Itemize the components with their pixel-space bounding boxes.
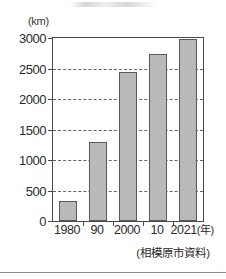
y-axis-tick-label: 1500 [19, 123, 46, 136]
x-axis-tick-label: 1980 [54, 224, 80, 237]
x-axis-unit-label: (年) [197, 224, 214, 236]
y-axis-tick-label: 3000 [19, 32, 46, 45]
y-axis-tick-label: 2500 [19, 62, 46, 75]
x-axis-tick [143, 221, 144, 226]
bar [59, 201, 78, 221]
y-axis-unit-label: (km) [28, 15, 49, 27]
y-axis-tick-label: 0 [39, 215, 46, 228]
y-axis-tick [48, 69, 53, 70]
bar [119, 72, 138, 221]
x-axis-tick-label: 2021(年) [171, 224, 214, 237]
x-axis-tick [83, 221, 84, 226]
y-axis-tick [48, 38, 53, 39]
y-axis-tick [48, 191, 53, 192]
x-axis-tick-label: 90 [90, 224, 103, 237]
source-annotation: (相模原市資料) [136, 248, 210, 260]
x-axis-tick-label: 10 [150, 224, 163, 237]
y-axis-tick [48, 160, 53, 161]
y-axis-tick [48, 99, 53, 100]
scan-artifact [70, 2, 156, 7]
bar [179, 39, 198, 221]
plot-area: 050010001500200025003000 [52, 37, 204, 222]
x-axis-tick-label: 2000 [114, 224, 140, 237]
y-axis-tick-label: 2000 [19, 93, 46, 106]
bar [89, 142, 108, 221]
page-divider-rule [0, 272, 226, 273]
y-axis-tick-label: 500 [26, 184, 46, 197]
y-axis-tick [48, 221, 53, 222]
bar [149, 54, 168, 221]
y-axis-tick [48, 130, 53, 131]
y-axis-tick-label: 1000 [19, 154, 46, 167]
bar-chart-figure: (km) 050010001500200025003000 (相模原市資料) 1… [0, 0, 226, 279]
